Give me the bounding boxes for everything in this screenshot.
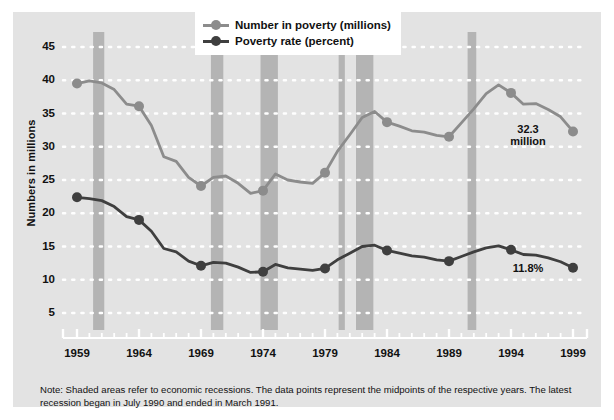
data-point-marker — [444, 132, 454, 142]
x-tick-label: 1969 — [176, 347, 226, 359]
legend-swatch-poverty-rate — [203, 35, 229, 48]
x-tick-label: 1984 — [362, 347, 412, 359]
annotation-poverty-rate: 11.8% — [499, 262, 557, 274]
y-tick-label: 35 — [25, 107, 55, 119]
data-point-marker — [134, 215, 144, 225]
legend-label-number-in-poverty: Number in poverty (millions) — [235, 19, 391, 31]
data-point-marker — [506, 88, 516, 98]
x-tick-label: 1959 — [52, 347, 102, 359]
y-tick-label: 5 — [25, 306, 55, 318]
data-point-marker — [382, 117, 392, 127]
y-tick-label: 40 — [25, 73, 55, 85]
data-point-marker — [568, 263, 578, 273]
data-point-marker — [444, 256, 454, 266]
legend-swatch-number-in-poverty — [203, 19, 229, 32]
legend-item-poverty-rate: Poverty rate (percent) — [203, 33, 391, 49]
y-tick-label: 45 — [25, 40, 55, 52]
x-tick-label: 1964 — [114, 347, 164, 359]
data-point-marker — [72, 192, 82, 202]
chart-panel: Numbers in millions 45403530252015105 19… — [13, 12, 601, 407]
data-point-marker — [258, 267, 268, 277]
data-point-marker — [196, 181, 206, 191]
x-axis-group — [63, 329, 587, 338]
y-tick-label: 15 — [25, 240, 55, 252]
annotation-number-in-poverty: 32.3 million — [497, 123, 559, 147]
y-tick-label: 20 — [25, 206, 55, 218]
legend-item-number-in-poverty: Number in poverty (millions) — [203, 17, 391, 33]
data-point-marker — [506, 245, 516, 255]
data-point-marker — [320, 263, 330, 273]
data-point-marker — [258, 186, 268, 196]
chart-legend: Number in poverty (millions) Poverty rat… — [195, 12, 401, 55]
data-point-marker — [196, 261, 206, 271]
x-tick-label: 1989 — [424, 347, 474, 359]
x-tick-label: 1994 — [486, 347, 536, 359]
y-tick-label: 25 — [25, 173, 55, 185]
plot-area: Numbers in millions 45403530252015105 19… — [13, 12, 601, 407]
y-tick-label: 10 — [25, 273, 55, 285]
chart-note: Note: Shaded areas refer to economic rec… — [40, 383, 600, 409]
legend-label-poverty-rate: Poverty rate (percent) — [235, 35, 354, 47]
y-tick-label: 30 — [25, 140, 55, 152]
x-tick-label: 1974 — [238, 347, 288, 359]
x-tick-label: 1979 — [300, 347, 350, 359]
figure-root: Numbers in millions 45403530252015105 19… — [0, 0, 614, 420]
data-point-marker — [134, 101, 144, 111]
x-tick-label: 1999 — [548, 347, 598, 359]
data-point-marker — [72, 79, 82, 89]
data-point-marker — [568, 126, 578, 136]
data-point-marker — [320, 168, 330, 178]
data-point-marker — [382, 245, 392, 255]
